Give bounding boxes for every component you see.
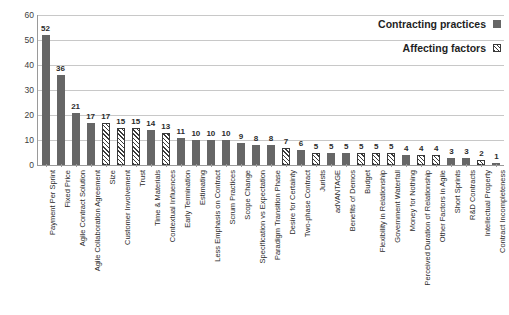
x-axis-tick-label: Contract Incompleteness — [499, 170, 507, 253]
x-axis-label-slot: Less Emphasis on Contract — [203, 167, 218, 315]
x-axis-label-slot: Agile Contract Solution — [68, 167, 83, 315]
x-axis-label-slot: Contract Incompleteness — [489, 167, 504, 315]
legend-swatch-icon — [493, 44, 501, 52]
y-axis-tick-label: 0 — [29, 161, 34, 170]
x-axis-label-slot: Jurists — [309, 167, 324, 315]
bar-item[interactable]: 6 — [294, 15, 309, 165]
bar-value-label: 15 — [131, 118, 140, 126]
x-axis-label-slot: Other Factors in Agile — [429, 167, 444, 315]
x-axis-label-slot: Intellectual Property — [474, 167, 489, 315]
x-axis-label-slot: Short Sprints — [444, 167, 459, 315]
bar-item[interactable]: 15 — [113, 15, 128, 165]
bar-item[interactable]: 13 — [158, 15, 173, 165]
x-axis-tick — [61, 164, 62, 167]
bar[interactable] — [147, 130, 155, 165]
bar-value-label: 15 — [116, 118, 125, 126]
x-axis-label-slot: Customer Involvement — [113, 167, 128, 315]
bar[interactable] — [87, 123, 95, 166]
bar-value-label: 5 — [359, 143, 363, 151]
bar[interactable] — [297, 150, 305, 165]
bar[interactable] — [222, 140, 230, 165]
bar-value-label: 17 — [86, 113, 95, 121]
x-axis-tick — [196, 164, 197, 167]
y-axis-tick-label: 50 — [25, 36, 34, 45]
bar-item[interactable]: 17 — [83, 15, 98, 165]
bar[interactable] — [267, 145, 275, 165]
x-axis-label-slot: Contextual Influences — [158, 167, 173, 315]
bar-value-label: 6 — [299, 140, 303, 148]
bar[interactable] — [57, 75, 65, 165]
x-axis-tick — [301, 164, 302, 167]
bar-value-label: 9 — [239, 133, 243, 141]
bar-chart: 0102030405060 52362117171515141311101010… — [0, 0, 509, 315]
bar-item[interactable]: 7 — [279, 15, 294, 165]
bar-item[interactable]: 14 — [143, 15, 158, 165]
bar[interactable] — [282, 148, 290, 166]
bar-value-label: 17 — [101, 113, 110, 121]
x-axis-tick — [166, 164, 167, 167]
bar[interactable] — [252, 145, 260, 165]
x-axis-label-slot: Agile Collaboration Agreement — [83, 167, 98, 315]
bar[interactable] — [132, 128, 140, 166]
bar[interactable] — [117, 128, 125, 166]
bar[interactable] — [177, 138, 185, 166]
bar-item[interactable]: 8 — [263, 15, 278, 165]
legend-label: Contracting practices — [378, 18, 486, 30]
bar-item[interactable]: 15 — [128, 15, 143, 165]
bar[interactable] — [102, 123, 110, 166]
bar[interactable] — [207, 140, 215, 165]
x-axis-label-slot: Specification vs Expectation — [248, 167, 263, 315]
bar-item[interactable]: 10 — [203, 15, 218, 165]
bar-value-label: 13 — [161, 123, 170, 131]
x-axis-label-slot: Scope Change — [233, 167, 248, 315]
x-axis-tick — [421, 164, 422, 167]
bar[interactable] — [72, 113, 80, 166]
bar-value-label: 7 — [284, 138, 288, 146]
bar-item[interactable]: 17 — [98, 15, 113, 165]
bar-item[interactable]: 8 — [248, 15, 263, 165]
x-axis-tick — [256, 164, 257, 167]
legend-swatch-icon — [493, 20, 501, 28]
x-axis-tick — [496, 164, 497, 167]
bar-item[interactable]: 36 — [53, 15, 68, 165]
x-axis-label-slot: Payment Per Sprint — [38, 167, 53, 315]
x-axis-tick — [361, 164, 362, 167]
x-axis-tick — [466, 164, 467, 167]
bar-value-label: 5 — [329, 143, 333, 151]
bar[interactable] — [192, 140, 200, 165]
y-axis-tick-label: 60 — [25, 11, 34, 20]
x-axis-tick — [346, 164, 347, 167]
legend-item[interactable]: Affecting factors — [311, 42, 501, 54]
bar-item[interactable]: 11 — [173, 15, 188, 165]
bar-value-label: 3 — [449, 148, 453, 156]
bar[interactable] — [162, 133, 170, 166]
bar-value-label: 2 — [479, 150, 483, 158]
x-axis-tick — [436, 164, 437, 167]
bar[interactable] — [42, 35, 50, 165]
x-axis-label-slot: Scrum Practices — [218, 167, 233, 315]
x-axis-label-slot: Early Termination — [173, 167, 188, 315]
x-axis-label-slot: Paradigm Transition Phase — [263, 167, 278, 315]
bar[interactable] — [237, 143, 245, 166]
y-axis-tick-label: 20 — [25, 111, 34, 120]
bar-item[interactable]: 21 — [68, 15, 83, 165]
y-axis-tick-label: 40 — [25, 61, 34, 70]
y-axis-tick-label: 10 — [25, 136, 34, 145]
bar-value-label: 10 — [221, 130, 230, 138]
bar-item[interactable]: 9 — [233, 15, 248, 165]
x-axis-label-slot: Time & Materials — [143, 167, 158, 315]
bar-value-label: 10 — [206, 130, 215, 138]
bar-item[interactable]: 10 — [218, 15, 233, 165]
legend-item[interactable]: Contracting practices — [311, 18, 501, 30]
x-axis-label-slot: Perceived Duration of Relationship — [414, 167, 429, 315]
x-axis-tick — [76, 164, 77, 167]
x-axis-tick — [481, 164, 482, 167]
x-axis-label-slot: Estimating — [188, 167, 203, 315]
bar-item[interactable]: 52 — [38, 15, 53, 165]
x-axis-label-slot: Fixed Price — [53, 167, 68, 315]
bar-value-label: 8 — [269, 135, 273, 143]
bar-value-label: 5 — [389, 143, 393, 151]
x-axis-tick — [181, 164, 182, 167]
bar-item[interactable]: 10 — [188, 15, 203, 165]
x-axis-tick — [106, 164, 107, 167]
